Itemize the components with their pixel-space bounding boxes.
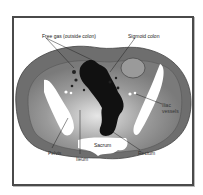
label-free-gas: Free gas (outside colon)	[42, 33, 96, 39]
label-pelvis: Pelvis	[48, 150, 61, 156]
label-sacrum: Sacrum	[94, 142, 111, 148]
label-ileum: Ileum	[76, 156, 88, 162]
sigmoid-colon	[121, 58, 145, 78]
label-iliac-vessels-2: vessels	[162, 108, 179, 114]
label-sigmoid-colon: Sigmoid colon	[128, 33, 159, 39]
pelvic-ct-illustration	[0, 0, 203, 195]
label-rectum: Rectum	[138, 150, 155, 156]
